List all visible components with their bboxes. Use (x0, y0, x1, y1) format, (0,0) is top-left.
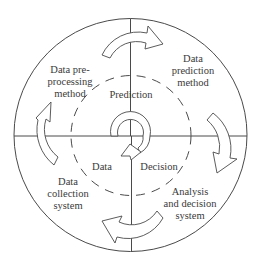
cycle-diagram: Prediction Data Decision Data pre- proce… (0, 0, 260, 270)
quadrant-top-left-line3: method (54, 88, 86, 99)
quadrant-top-left-line1: Data pre- (50, 64, 90, 75)
label-data: Data (92, 161, 112, 172)
label-decision: Decision (140, 161, 178, 172)
quadrant-bottom-right-line3: system (175, 210, 204, 221)
quadrant-top-right-line2: prediction (172, 65, 215, 76)
center-cycle-arrowhead-icon (121, 144, 141, 160)
arrow-down-icon (207, 113, 237, 173)
quadrant-top-left-line2: processing (48, 76, 94, 87)
quadrant-bottom-left-line1: Data (58, 176, 78, 187)
quadrant-bottom-right-line1: Analysis (172, 186, 209, 197)
arrow-right-icon (102, 26, 163, 58)
quadrant-top-right-line1: Data (183, 53, 203, 64)
arrow-up-icon (36, 102, 58, 165)
quadrant-top-right-line3: method (177, 77, 209, 88)
quadrant-bottom-left-line2: collection (47, 188, 89, 199)
arrow-left-icon (102, 211, 163, 243)
label-prediction: Prediction (109, 89, 153, 100)
quadrant-bottom-right-line2: and decision (164, 198, 218, 209)
quadrant-bottom-left-line3: system (53, 200, 82, 211)
